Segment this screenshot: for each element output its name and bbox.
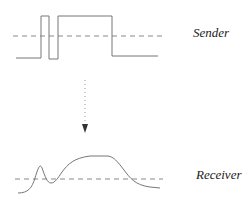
sender-waveform [16, 16, 158, 59]
arrow-down-icon [82, 124, 88, 133]
receiver-label: Receiver [196, 167, 241, 183]
sender-label: Sender [193, 25, 229, 41]
receiver-waveform [18, 156, 160, 193]
